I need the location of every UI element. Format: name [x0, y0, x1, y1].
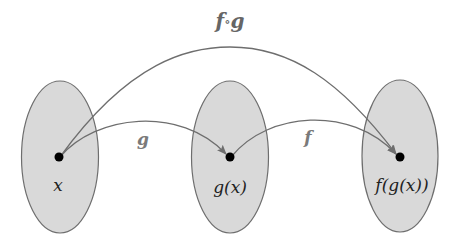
label-g-of-x: g(x)	[213, 177, 247, 197]
label-arrow-g: g	[137, 129, 149, 149]
label-x: x	[53, 175, 63, 195]
point-g-of-x	[226, 153, 235, 162]
label-composition: f∘g	[214, 9, 245, 33]
point-x	[55, 153, 64, 162]
label-composition-g: g	[231, 9, 245, 33]
function-composition-diagram: x g(x) f(g(x)) g f f∘g	[0, 0, 459, 246]
label-f-of-g-of-x: f(g(x))	[373, 175, 428, 195]
point-f-of-g-of-x	[396, 153, 405, 162]
label-arrow-f: f	[303, 127, 314, 147]
